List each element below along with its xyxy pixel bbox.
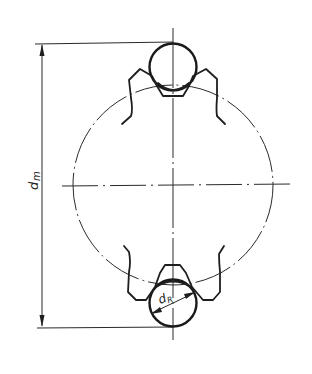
dR-label: d R	[156, 289, 174, 308]
dm-bottom-extension-line	[37, 327, 173, 328]
arrow-up-icon	[40, 44, 45, 56]
horizontal-centerline	[62, 184, 293, 186]
arrow-right-icon	[184, 292, 195, 299]
arrow-down-icon	[40, 315, 45, 327]
arrow-left-icon	[151, 307, 162, 314]
dm-label-main: d	[26, 181, 41, 190]
dm-label-sub: m	[31, 171, 42, 181]
dm-label: d m	[26, 171, 42, 190]
dm-top-extension-line	[35, 42, 173, 44]
bearing-pitch-diagram: d m d R	[0, 0, 312, 374]
bottom-cage-pocket	[124, 246, 224, 300]
